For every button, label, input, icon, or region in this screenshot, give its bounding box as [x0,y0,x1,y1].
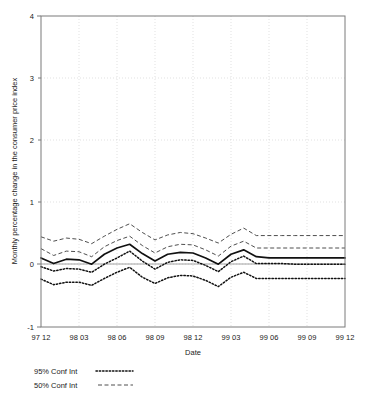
x-tick-label: 99 06 [260,333,279,342]
x-tick-label: 98 06 [108,333,127,342]
x-tick-label: 97 12 [32,333,51,342]
y-tick-label: 0 [30,260,34,269]
x-tick-label: 99 03 [222,333,241,342]
y-tick-label: 3 [30,74,34,83]
y-tick-label: 1 [30,198,34,207]
x-tick-label: 98 03 [70,333,89,342]
x-axis-title: Date [185,348,201,357]
y-axis-title: Monthly percentage change in the consume… [10,78,19,265]
x-tick-label: 99 09 [298,333,317,342]
chart-canvas: 4 3 2 1 0 -1 97 12 98 03 98 06 98 09 98 … [0,0,367,404]
y-tick-label: 4 [30,12,34,21]
y-tick-label: 2 [30,136,34,145]
legend-label-conf50: 50% Conf Int [34,381,78,390]
x-tick-label: 98 12 [184,333,203,342]
x-tick-label: 98 09 [146,333,165,342]
x-tick-label: 99 12 [336,333,355,342]
y-tick-label: -1 [27,323,34,332]
legend-label-conf95: 95% Conf Int [34,367,78,376]
x-tick-labels: 97 12 98 03 98 06 98 09 98 12 99 03 99 0… [32,333,355,342]
chart-figure: 4 3 2 1 0 -1 97 12 98 03 98 06 98 09 98 … [0,0,367,404]
